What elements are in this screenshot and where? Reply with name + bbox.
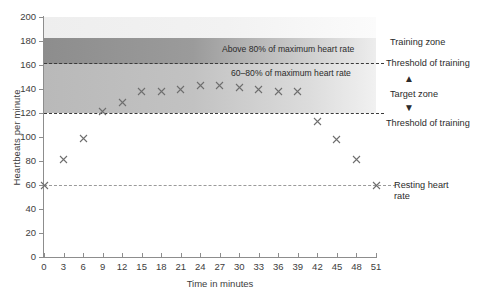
y-tick-mark [39,137,43,138]
zone-label-target-percent: 60–80% of maximum heart rate [231,68,351,78]
x-tick-mark [337,253,338,257]
y-axis-line [43,16,44,258]
y-tick-label: 0 [10,251,36,263]
y-tick-label: 60 [10,179,36,191]
data-point-marker [313,117,322,126]
data-point-marker [59,155,68,164]
x-tick-mark [239,253,240,257]
heart-rate-chart: Above 80% of maximum heart rate 60–80% o… [0,0,478,297]
x-tick-label: 0 [35,261,53,273]
arrow-up-icon: ▲ [404,74,414,83]
y-tick-label: 80 [10,155,36,167]
data-point-marker [372,181,381,190]
annotation-threshold-lower: Threshold of training [386,118,470,129]
zone-band-top [44,17,376,38]
y-tick-label: 180 [10,35,36,47]
x-tick-label: 36 [269,261,287,273]
x-tick-label: 39 [289,261,307,273]
y-tick-mark [39,209,43,210]
resting-heart-rate-line [44,185,396,186]
x-tick-label: 42 [308,261,326,273]
x-tick-mark [83,253,84,257]
y-tick-label: 100 [10,131,36,143]
zone-label-above-80: Above 80% of maximum heart rate [222,44,354,54]
y-tick-label: 140 [10,83,36,95]
annotation-threshold-upper: Threshold of training [386,58,470,69]
data-point-marker [352,155,361,164]
y-tick-mark [39,233,43,234]
x-tick-label: 12 [113,261,131,273]
annotation-training-zone: Training zone [390,37,445,48]
y-tick-mark [39,17,43,18]
x-tick-label: 24 [191,261,209,273]
y-tick-mark [39,65,43,66]
data-point-marker [332,135,341,144]
y-tick-label: 20 [10,227,36,239]
x-tick-mark [181,253,182,257]
y-tick-mark [39,113,43,114]
data-point-marker [98,107,107,116]
y-tick-label: 120 [10,107,36,119]
data-point-marker [157,87,166,96]
y-tick-mark [39,89,43,90]
x-tick-mark [142,253,143,257]
annotation-resting-heart-rate: Resting heart rate [394,180,456,202]
x-axis-title: Time in minutes [150,278,290,289]
x-tick-mark [376,253,377,257]
data-point-marker [293,87,302,96]
x-tick-mark [298,253,299,257]
y-tick-mark [39,41,43,42]
data-point-marker [274,87,283,96]
x-tick-mark [278,253,279,257]
x-tick-mark [44,253,45,257]
data-point-marker [235,83,244,92]
data-point-marker [215,81,224,90]
x-tick-label: 15 [133,261,151,273]
y-tick-mark [39,257,43,258]
y-tick-label: 200 [10,11,36,23]
arrow-down-icon: ▼ [404,103,414,112]
x-tick-label: 33 [250,261,268,273]
annotation-resting-line-2: rate [394,191,456,202]
y-tick-label: 160 [10,59,36,71]
annotation-resting-line-1: Resting heart [394,180,456,191]
x-tick-mark [161,253,162,257]
x-tick-label: 21 [172,261,190,273]
x-tick-label: 27 [211,261,229,273]
upper-threshold-line [44,63,384,64]
x-tick-label: 18 [152,261,170,273]
x-tick-mark [103,253,104,257]
x-tick-mark [200,253,201,257]
x-tick-label: 6 [74,261,92,273]
x-tick-mark [64,253,65,257]
x-tick-label: 3 [55,261,73,273]
x-tick-mark [259,253,260,257]
data-point-marker [176,85,185,94]
annotation-target-zone: Target zone [390,89,438,100]
y-tick-mark [39,161,43,162]
x-tick-label: 9 [94,261,112,273]
x-tick-mark [317,253,318,257]
x-tick-mark [122,253,123,257]
x-tick-mark [220,253,221,257]
x-tick-label: 48 [347,261,365,273]
data-point-marker [40,181,49,190]
data-point-marker [254,85,263,94]
x-tick-label: 51 [367,261,385,273]
x-tick-label: 30 [230,261,248,273]
y-tick-label: 40 [10,203,36,215]
x-axis-line [43,257,377,258]
lower-threshold-line [44,113,384,114]
x-tick-label: 45 [328,261,346,273]
data-point-marker [79,134,88,143]
data-point-marker [196,81,205,90]
data-point-marker [118,98,127,107]
data-point-marker [137,87,146,96]
x-tick-mark [356,253,357,257]
